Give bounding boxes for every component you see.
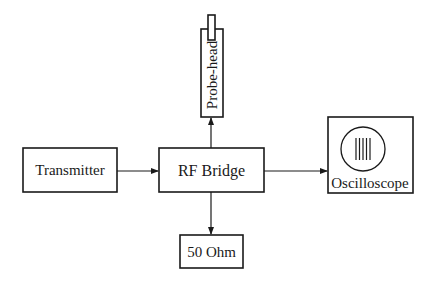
probe-head-block: Probe-head — [201, 15, 223, 117]
block-diagram: Transmitter RF Bridge Probe-head Oscillo… — [0, 0, 432, 285]
load-label: 50 Ohm — [187, 244, 236, 260]
probe-head-label: Probe-head — [204, 40, 220, 109]
rf-bridge-label: RF Bridge — [178, 162, 245, 180]
probe-tip-icon — [208, 15, 215, 40]
transmitter-block: Transmitter — [23, 148, 117, 192]
oscilloscope-label: Oscilloscope — [331, 175, 409, 191]
load-50-ohm-block: 50 Ohm — [180, 235, 243, 268]
rf-bridge-block: RF Bridge — [159, 148, 264, 192]
oscilloscope-block: Oscilloscope — [328, 117, 413, 193]
transmitter-label: Transmitter — [35, 162, 104, 178]
